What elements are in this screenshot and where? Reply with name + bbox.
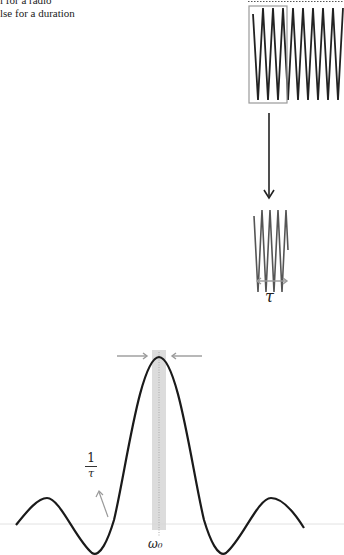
pulse-duration-label: τ xyxy=(265,287,274,306)
center-frequency-label: ω₀ xyxy=(148,537,163,551)
down-arrow-icon xyxy=(264,113,274,198)
fraction-denominator: τ xyxy=(84,468,98,480)
fraction-numerator: 1 xyxy=(84,452,98,465)
rf-pulse-figure xyxy=(0,0,344,555)
inverse-duration-label: 1 τ xyxy=(84,452,98,480)
continuous-rf-wave xyxy=(253,8,343,100)
width-pointer-arrow-icon xyxy=(96,491,108,517)
